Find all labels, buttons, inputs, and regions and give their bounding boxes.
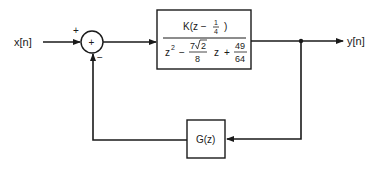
den-const-den: 64: [235, 54, 245, 64]
numerator-suffix: ): [224, 21, 227, 32]
input-label: x[n]: [14, 36, 32, 48]
den-term1: z: [165, 47, 170, 58]
den-const-num: 49: [235, 41, 245, 51]
feedback-block-diagram: x[n] + + − K(z − 1 4 ) z 2 − 7 2 8 z + 4…: [0, 0, 377, 170]
feedback-block-label: G(z): [196, 134, 215, 145]
summing-junction-symbol: +: [89, 37, 95, 48]
den-coef-num-b: 2: [201, 41, 206, 51]
output-label: y[n]: [347, 35, 365, 47]
den-term2: z: [214, 47, 219, 58]
den-term1-exp: 2: [171, 44, 175, 51]
den-minus: −: [179, 47, 185, 58]
feedback-transfer-block: G(z): [187, 120, 225, 158]
forward-transfer-block: K(z − 1 4 ) z 2 − 7 2 8 z + 49 64: [157, 10, 251, 69]
numerator-prefix: K(z −: [183, 21, 207, 32]
den-coef-den: 8: [195, 54, 200, 64]
den-plus: +: [224, 47, 230, 58]
feedback-sign: −: [97, 52, 103, 63]
numerator-frac-num: 1: [214, 19, 218, 26]
den-coef-num-a: 7: [190, 41, 195, 51]
forward-sign: +: [73, 25, 79, 36]
numerator-frac-den: 4: [214, 28, 218, 35]
